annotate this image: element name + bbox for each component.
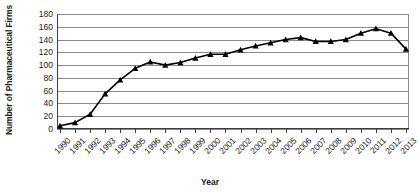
x-tick-mark (195, 129, 196, 133)
y-tick-label: 100 (39, 60, 53, 70)
x-tick-mark (135, 129, 136, 133)
y-tick-label: 20 (44, 111, 53, 121)
x-tick-mark (75, 129, 76, 133)
x-tick-mark (301, 129, 302, 133)
x-axis-tick-labels: 1990199119921993199419951996199719981999… (57, 134, 409, 174)
y-tick-label: 180 (39, 9, 53, 19)
x-tick-mark (60, 129, 61, 133)
x-tick-mark (150, 129, 151, 133)
x-tick-mark (105, 129, 106, 133)
x-tick-mark (241, 129, 242, 133)
x-tick-mark (376, 129, 377, 133)
y-axis-title-text: Number of Pharmaceutical Firms (4, 5, 14, 135)
x-tick-mark (256, 129, 257, 133)
x-tick-mark (90, 129, 91, 133)
x-tick-mark (406, 129, 407, 133)
x-tick-mark (331, 129, 332, 133)
x-tick-mark (361, 129, 362, 133)
y-tick-label: 0 (48, 124, 53, 134)
x-tick-mark (210, 129, 211, 133)
x-tick-mark (391, 129, 392, 133)
y-axis-tick-labels: 020406080100120140160180 (16, 0, 56, 140)
x-tick-mark (316, 129, 317, 133)
data-series (57, 14, 409, 129)
x-tick-mark (180, 129, 181, 133)
y-tick-label: 160 (39, 22, 53, 32)
x-tick-mark (120, 129, 121, 133)
y-tick-label: 60 (44, 86, 53, 96)
x-tick-mark (225, 129, 226, 133)
line-chart: Number of Pharmaceutical Firms 020406080… (0, 0, 420, 196)
series-line (60, 29, 406, 126)
x-tick-label: 2013 (398, 135, 418, 155)
x-tick-mark (286, 129, 287, 133)
x-tick-mark (165, 129, 166, 133)
y-tick-label: 40 (44, 98, 53, 108)
data-point-marker (373, 26, 379, 32)
y-tick-label: 120 (39, 47, 53, 57)
x-axis-title: Year (0, 177, 420, 187)
y-tick-label: 140 (39, 35, 53, 45)
x-tick-mark (346, 129, 347, 133)
plot-area (57, 14, 409, 129)
x-tick-mark (271, 129, 272, 133)
y-tick-label: 80 (44, 73, 53, 83)
